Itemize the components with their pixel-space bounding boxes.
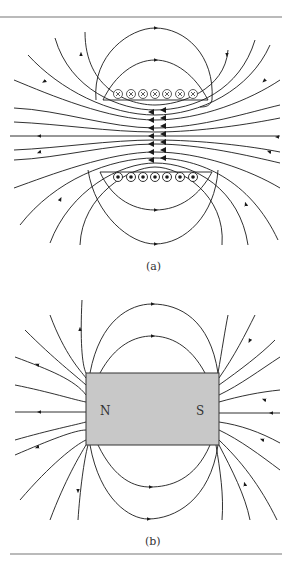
panel-b-label: (b) <box>145 535 161 548</box>
solenoid-field-lines <box>10 28 280 245</box>
south-pole-label: S <box>196 404 204 418</box>
diagram-canvas <box>0 0 292 569</box>
north-pole-label: N <box>100 404 111 418</box>
solenoid-top-coils <box>114 90 198 99</box>
panel-a-label: (a) <box>146 260 161 273</box>
